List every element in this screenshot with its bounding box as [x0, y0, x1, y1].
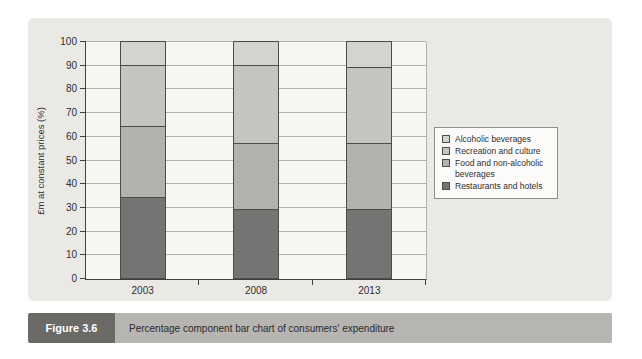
bar-segment-2013-alcoholic-beverages [346, 41, 392, 68]
y-tick-label-90: 90 [47, 61, 77, 71]
y-tick-label-10: 10 [47, 250, 77, 260]
y-tick-80 [80, 88, 86, 89]
legend-swatch-icon [442, 135, 450, 143]
legend-swatch-icon [442, 147, 450, 155]
y-tick-label-50: 50 [47, 156, 77, 166]
y-axis-title: £m at constant prices (%) [35, 107, 46, 215]
y-tick-label-30: 30 [47, 203, 77, 213]
y-tick-label-100: 100 [47, 37, 77, 47]
x-category-label-2008: 2008 [226, 285, 286, 296]
x-tick-2 [312, 279, 313, 285]
figure-label: Figure 3.6 [28, 313, 115, 343]
y-tick-90 [80, 65, 86, 66]
bar-segment-2008-food-and-non-alcoholic-beverages [233, 143, 279, 210]
legend-swatch-icon [442, 182, 450, 190]
x-category-label-2013: 2013 [339, 285, 399, 296]
y-tick-50 [80, 160, 86, 161]
y-tick-70 [80, 112, 86, 113]
y-tick-label-20: 20 [47, 227, 77, 237]
bar-2013 [346, 42, 392, 279]
bar-segment-2003-restaurants-and-hotels [120, 197, 166, 279]
y-tick-30 [80, 207, 86, 208]
plot-area: £m at constant prices (%) 01020304050607… [85, 42, 427, 280]
legend-item: Food and non-alcoholic beverages [442, 158, 551, 180]
y-tick-20 [80, 231, 86, 232]
y-tick-label-80: 80 [47, 84, 77, 94]
x-tick-1 [198, 279, 199, 285]
legend-item: Restaurants and hotels [442, 181, 551, 192]
legend-swatch-icon [442, 159, 450, 167]
bar-segment-2013-restaurants-and-hotels [346, 209, 392, 279]
y-tick-10 [80, 254, 86, 255]
y-tick-60 [80, 136, 86, 137]
legend-item: Alcoholic beverages [442, 134, 551, 145]
legend-label: Food and non-alcoholic beverages [455, 158, 551, 180]
legend-label: Recreation and culture [455, 146, 541, 157]
bar-segment-2003-recreation-and-culture [120, 65, 166, 128]
y-tick-40 [80, 183, 86, 184]
bar-segment-2013-recreation-and-culture [346, 67, 392, 144]
y-tick-label-40: 40 [47, 179, 77, 189]
bar-2008 [233, 42, 279, 279]
legend-label: Alcoholic beverages [455, 134, 531, 145]
figure-caption-bar: Figure 3.6 Percentage component bar char… [28, 313, 612, 343]
bar-segment-2008-restaurants-and-hotels [233, 209, 279, 279]
legend-label: Restaurants and hotels [455, 181, 542, 192]
y-tick-label-70: 70 [47, 108, 77, 118]
y-tick-0 [80, 278, 86, 279]
y-tick-label-60: 60 [47, 132, 77, 142]
bar-2003 [120, 42, 166, 279]
figure-caption-text: Percentage component bar chart of consum… [115, 313, 612, 343]
chart-panel: £m at constant prices (%) 01020304050607… [28, 18, 612, 301]
legend: Alcoholic beveragesRecreation and cultur… [434, 127, 558, 199]
legend-item: Recreation and culture [442, 146, 551, 157]
bar-segment-2013-food-and-non-alcoholic-beverages [346, 143, 392, 210]
bar-segment-2003-food-and-non-alcoholic-beverages [120, 126, 166, 198]
y-tick-label-0: 0 [47, 274, 77, 284]
x-category-label-2003: 2003 [113, 285, 173, 296]
y-tick-100 [80, 41, 86, 42]
x-tick-3 [425, 279, 426, 285]
bar-segment-2008-recreation-and-culture [233, 65, 279, 144]
bar-segment-2003-alcoholic-beverages [120, 41, 166, 66]
bar-segment-2008-alcoholic-beverages [233, 41, 279, 66]
